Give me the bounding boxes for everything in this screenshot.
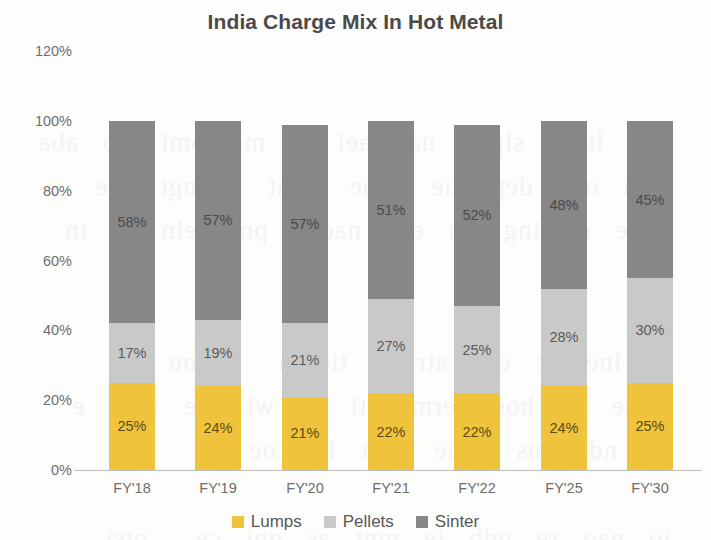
x-axis-tick-label: FY'20: [260, 480, 350, 496]
bar-segment-sinter[interactable]: 57%: [195, 121, 241, 320]
bar-segment-label: 22%: [376, 424, 405, 440]
bar-segment-sinter[interactable]: 51%: [368, 121, 414, 299]
y-axis-tick-label: 80%: [6, 183, 72, 199]
y-axis-tick-label: 0%: [6, 462, 72, 478]
bar-segment-lumps[interactable]: 24%: [541, 386, 587, 470]
x-axis-tick-label: FY'30: [605, 480, 695, 496]
chart-legend: LumpsPelletsSinter: [0, 512, 711, 532]
bar-segment-label: 24%: [203, 420, 232, 436]
x-axis-tick-label: FY'19: [173, 480, 263, 496]
bar-column[interactable]: 52%25%22%: [454, 125, 500, 470]
bar-column[interactable]: 58%17%25%: [109, 121, 155, 470]
bar-segment-label: 19%: [203, 345, 232, 361]
y-axis-tick-label: 60%: [6, 253, 72, 269]
bar-segment-label: 52%: [462, 207, 491, 223]
bar-segment-lumps[interactable]: 25%: [109, 383, 155, 470]
x-axis-tick-label: FY'25: [519, 480, 609, 496]
chart-page: dnd lthse slpwr ua caei mo omi fro aba e…: [0, 0, 711, 540]
x-axis-tick-label: FY'18: [87, 480, 177, 496]
bar-column[interactable]: 45%30%25%: [627, 121, 673, 470]
bar-segment-pellets[interactable]: 19%: [195, 320, 241, 386]
bar-column[interactable]: 57%19%24%: [195, 121, 241, 470]
bar-segment-label: 25%: [117, 418, 146, 434]
bar-column[interactable]: 57%21%21%: [282, 125, 328, 470]
bar-segment-sinter[interactable]: 57%: [282, 125, 328, 324]
bar-segment-lumps[interactable]: 21%: [282, 397, 328, 470]
bar-segment-label: 24%: [549, 420, 578, 436]
bar-segment-sinter[interactable]: 48%: [541, 121, 587, 289]
bar-segment-pellets[interactable]: 28%: [541, 289, 587, 387]
bar-segment-label: 17%: [117, 345, 146, 361]
bar-segment-label: 57%: [290, 216, 319, 232]
bar-segment-label: 21%: [290, 425, 319, 441]
bar-segment-lumps[interactable]: 22%: [454, 393, 500, 470]
legend-label: Pellets: [343, 512, 394, 532]
bar-segment-sinter[interactable]: 52%: [454, 125, 500, 306]
bar-segment-label: 45%: [635, 192, 664, 208]
bar-segment-label: 58%: [117, 214, 146, 230]
y-axis-tick-label: 40%: [6, 322, 72, 338]
bar-segment-pellets[interactable]: 17%: [109, 323, 155, 382]
y-axis-tick-label: 100%: [6, 113, 72, 129]
bar-column[interactable]: 48%28%24%: [541, 121, 587, 470]
legend-swatch-icon: [416, 516, 428, 528]
bar-segment-sinter[interactable]: 58%: [109, 121, 155, 323]
bar-segment-label: 48%: [549, 197, 578, 213]
bar-segment-pellets[interactable]: 21%: [282, 323, 328, 396]
bar-segment-lumps[interactable]: 24%: [195, 386, 241, 470]
bar-segment-label: 30%: [635, 322, 664, 338]
x-axis-tick-label: FY'22: [432, 480, 522, 496]
bar-segment-pellets[interactable]: 25%: [454, 306, 500, 393]
bar-segment-lumps[interactable]: 25%: [627, 383, 673, 470]
legend-label: Sinter: [435, 512, 479, 532]
y-axis-tick-label: 20%: [6, 392, 72, 408]
bar-column[interactable]: 51%27%22%: [368, 121, 414, 470]
legend-item-lumps[interactable]: Lumps: [232, 512, 302, 532]
bar-segment-label: 51%: [376, 202, 405, 218]
bar-segment-label: 28%: [549, 329, 578, 345]
y-axis-tick-label: 120%: [6, 43, 72, 59]
legend-item-pellets[interactable]: Pellets: [324, 512, 394, 532]
bar-segment-label: 57%: [203, 212, 232, 228]
bar-segment-label: 25%: [635, 418, 664, 434]
legend-swatch-icon: [324, 516, 336, 528]
legend-item-sinter[interactable]: Sinter: [416, 512, 479, 532]
legend-swatch-icon: [232, 516, 244, 528]
legend-label: Lumps: [251, 512, 302, 532]
bar-segment-label: 22%: [462, 424, 491, 440]
bar-segment-pellets[interactable]: 27%: [368, 299, 414, 393]
bar-segment-sinter[interactable]: 45%: [627, 121, 673, 278]
x-axis-tick-label: FY'21: [346, 480, 436, 496]
bar-segment-pellets[interactable]: 30%: [627, 278, 673, 383]
x-axis-line: [74, 470, 702, 471]
bar-segment-lumps[interactable]: 22%: [368, 393, 414, 470]
plot-area: 0%20%40%60%80%100%120% 58%17%25%57%19%24…: [0, 0, 711, 540]
bar-segment-label: 27%: [376, 338, 405, 354]
bar-segment-label: 25%: [462, 342, 491, 358]
bar-segment-label: 21%: [290, 352, 319, 368]
